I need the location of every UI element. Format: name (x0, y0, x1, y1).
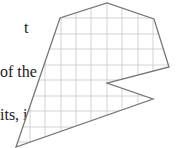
grid-polygon-figure (0, 0, 177, 148)
polygon-fill (16, 3, 169, 147)
